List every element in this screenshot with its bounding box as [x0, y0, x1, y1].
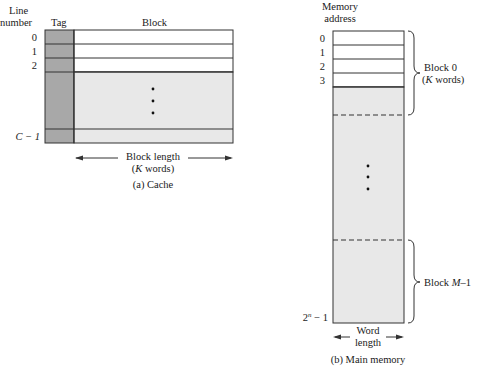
- arrow-left-icon: [333, 335, 341, 340]
- ellipsis-dot: [367, 165, 370, 168]
- ellipsis-dot: [152, 112, 155, 115]
- ellipsis-dot: [152, 100, 155, 103]
- cache-memory-diagram: Line number Tag Block 0 1 2 C − 1 Block …: [0, 0, 479, 371]
- memory-body: [333, 87, 404, 323]
- memory-address-header-line1: Memory: [322, 1, 359, 12]
- address-label-1: 1: [320, 47, 325, 58]
- address-label-2: 2: [320, 61, 325, 72]
- blockM-brace: [408, 240, 420, 323]
- address-label-3: 3: [320, 75, 325, 86]
- main-memory-diagram: Memory address 0 1 2 3 2n − 1 Block 0 (K…: [303, 1, 471, 366]
- arrow-right-icon: [225, 156, 233, 161]
- arrow-left-icon: [75, 156, 83, 161]
- block-length-label: Block length: [126, 151, 181, 162]
- block0-brace: [408, 31, 420, 115]
- word-length-label-line1: Word: [356, 325, 380, 336]
- cache-diagram: Line number Tag Block 0 1 2 C − 1 Block …: [0, 5, 233, 191]
- line-number-header-line1: Line: [9, 5, 29, 16]
- line-label-c-minus-1: C − 1: [15, 131, 40, 142]
- line-number-header-line2: number: [0, 17, 33, 28]
- line-label-2: 2: [32, 60, 37, 71]
- address-label-last: 2n − 1: [303, 311, 328, 323]
- tag-column: [45, 30, 74, 143]
- arrow-right-icon: [396, 335, 404, 340]
- blockM-label: Block M–1: [424, 277, 471, 288]
- tag-header: Tag: [51, 17, 67, 28]
- cache-caption: (a) Cache: [133, 179, 174, 191]
- block-length-unit: (K words): [132, 163, 175, 175]
- block-rows-top: [74, 30, 233, 72]
- block0-label: Block 0: [424, 62, 457, 73]
- block0-unit: (K words): [422, 74, 465, 86]
- ellipsis-dot: [367, 188, 370, 191]
- block-header: Block: [142, 17, 168, 28]
- memory-address-header-line2: address: [324, 13, 356, 24]
- block-rows-gray: [74, 72, 233, 143]
- line-label-0: 0: [32, 32, 37, 43]
- ellipsis-dot: [367, 176, 370, 179]
- line-label-1: 1: [32, 46, 37, 57]
- address-label-0: 0: [320, 33, 325, 44]
- word-length-label-line2: length: [355, 337, 382, 348]
- main-memory-caption: (b) Main memory: [331, 354, 406, 366]
- ellipsis-dot: [152, 88, 155, 91]
